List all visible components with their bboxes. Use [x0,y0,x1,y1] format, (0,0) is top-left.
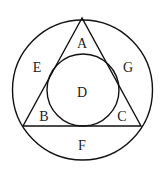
venn-geometry-diagram: A D E G B C F [0,0,162,172]
region-label-b: B [39,109,48,124]
region-label-g: G [123,60,133,75]
region-label-e: E [33,60,42,75]
region-label-d: D [77,85,87,100]
region-label-c: C [117,109,126,124]
region-label-f: F [78,138,86,153]
region-label-a: A [77,36,88,51]
